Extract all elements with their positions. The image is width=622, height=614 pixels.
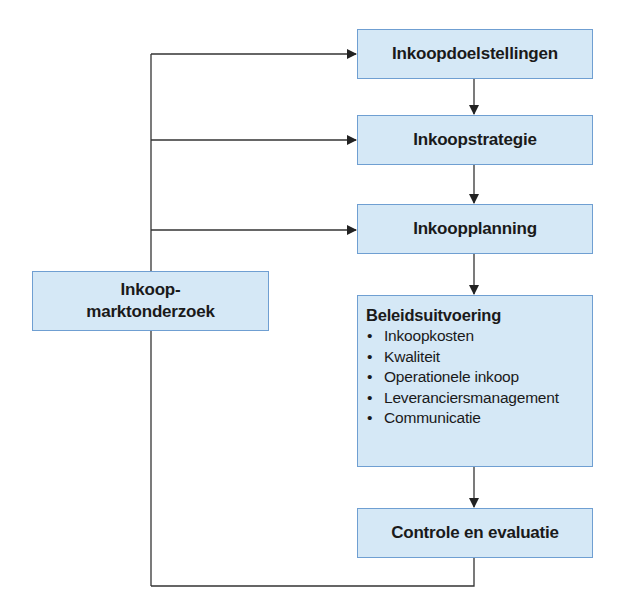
box-inkoopstrategie: Inkoopstrategie	[357, 115, 593, 165]
box-inkoopmarktonderzoek: Inkoop- marktonderzoek	[32, 271, 269, 331]
list-item: Kwaliteit	[366, 347, 584, 368]
box-label: Inkoopdoelstellingen	[392, 44, 558, 64]
box-label: Inkoopplanning	[413, 219, 537, 239]
box-beleidsuitvoering: Beleidsuitvoering Inkoopkosten Kwaliteit…	[357, 295, 593, 467]
list-item: Operationele inkoop	[366, 367, 584, 388]
box-inkoopplanning: Inkoopplanning	[357, 204, 593, 254]
box-controle-en-evaluatie: Controle en evaluatie	[357, 508, 593, 558]
list-item: Communicatie	[366, 408, 584, 429]
bullet-list: Inkoopkosten Kwaliteit Operationele inko…	[366, 326, 584, 429]
list-item: Leveranciersmanagement	[366, 388, 584, 409]
box-label-line2: marktonderzoek	[86, 301, 215, 323]
box-title: Beleidsuitvoering	[366, 306, 584, 325]
box-label: Controle en evaluatie	[391, 523, 559, 543]
box-inkoopdoelstellingen: Inkoopdoelstellingen	[357, 29, 593, 79]
box-label: Inkoopstrategie	[413, 130, 537, 150]
box-label-line1: Inkoop-	[121, 279, 181, 301]
list-item: Inkoopkosten	[366, 326, 584, 347]
